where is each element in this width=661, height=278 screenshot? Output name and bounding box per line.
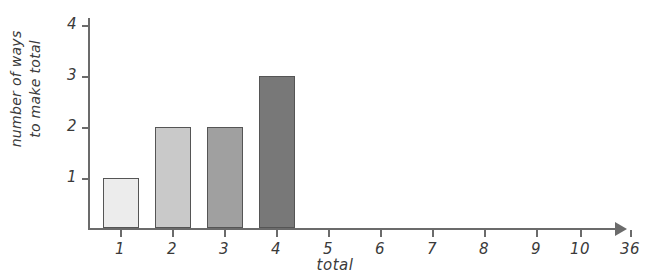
x-tick-label-3: 3 bbox=[204, 240, 244, 258]
x-tick-mark-1 bbox=[120, 230, 122, 237]
y-tick-label: 2 bbox=[49, 117, 77, 135]
x-tick-label-2: 2 bbox=[152, 240, 192, 258]
x-axis-title: total bbox=[295, 256, 375, 274]
y-tick-1: 1 bbox=[0, 178, 89, 180]
y-tick-4: 4 bbox=[0, 25, 89, 27]
x-tick-label-4: 4 bbox=[256, 240, 296, 258]
x-axis-arrow-icon bbox=[615, 222, 627, 236]
x-tick-mark-10 bbox=[580, 230, 582, 237]
y-axis-title: number of ways to make total bbox=[7, 29, 45, 149]
x-tick-label-9: 9 bbox=[516, 240, 556, 258]
x-tick-mark-9 bbox=[536, 230, 538, 237]
y-tick-label: 1 bbox=[49, 168, 77, 186]
x-tick-mark-36 bbox=[630, 230, 632, 237]
x-tick-label-36: 36 bbox=[610, 240, 650, 258]
x-tick-mark-6 bbox=[380, 230, 382, 237]
x-tick-mark-3 bbox=[224, 230, 226, 237]
y-tick-label: 4 bbox=[49, 15, 77, 33]
bar-total-4 bbox=[259, 76, 295, 228]
x-tick-label-1: 1 bbox=[100, 240, 140, 258]
y-axis-line bbox=[88, 18, 90, 230]
x-tick-mark-7 bbox=[432, 230, 434, 237]
y-tick-mark bbox=[82, 76, 89, 78]
x-tick-label-7: 7 bbox=[412, 240, 452, 258]
bar-total-1 bbox=[103, 178, 139, 228]
bar-total-3 bbox=[207, 127, 243, 228]
y-tick-mark bbox=[82, 127, 89, 129]
x-axis-line bbox=[88, 228, 621, 230]
y-tick-mark bbox=[82, 25, 89, 27]
x-tick-label-10: 10 bbox=[560, 240, 600, 258]
y-tick-label: 3 bbox=[49, 66, 77, 84]
bar-total-2 bbox=[155, 127, 191, 228]
x-tick-mark-4 bbox=[276, 230, 278, 237]
x-tick-mark-8 bbox=[484, 230, 486, 237]
x-tick-label-8: 8 bbox=[464, 240, 504, 258]
y-tick-mark bbox=[82, 178, 89, 180]
bar-chart: 4 3 2 1 1 2 3 4 5 6 7 8 9 10 36 number o… bbox=[0, 0, 661, 278]
x-tick-mark-2 bbox=[172, 230, 174, 237]
x-tick-mark-5 bbox=[328, 230, 330, 237]
